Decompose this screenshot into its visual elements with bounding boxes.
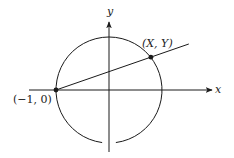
point-xy-label: (X, Y) [142,37,173,50]
point-xy [148,55,153,60]
unit-circle-diagram: y x (X, Y) (−1, 0) [0,0,234,158]
y-axis-label: y [106,5,114,18]
point-left [54,88,59,93]
point-left-label: (−1, 0) [13,93,52,106]
secant-line [56,44,189,90]
x-axis-label: x [215,83,222,96]
